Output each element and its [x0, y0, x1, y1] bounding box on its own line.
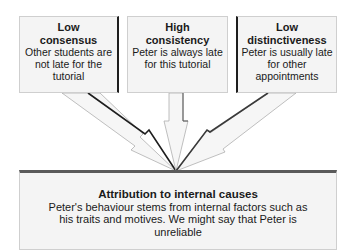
box-low-consensus-title-line1: Low — [20, 21, 117, 34]
box-high-consistency-title-line1: High — [128, 21, 227, 34]
box-internal-attribution-text: Peter's behaviour stems from internal fa… — [20, 201, 336, 239]
box-high-consistency: High consistency Peter is always late fo… — [127, 16, 228, 93]
arrow-left — [62, 93, 176, 171]
box-internal-attribution-title: Attribution to internal causes — [20, 188, 336, 201]
box-low-distinctiveness: Low distinctiveness Peter is usually lat… — [236, 16, 337, 93]
box-low-distinctiveness-title-line2: distinctiveness — [238, 34, 336, 47]
box-low-distinctiveness-text: Peter is usually late for other appointm… — [238, 46, 336, 82]
box-low-consensus-text: Other students are not late for the tuto… — [20, 46, 117, 82]
box-low-consensus-title-line2: consensus — [20, 34, 117, 47]
arrow-right — [176, 93, 296, 171]
box-low-distinctiveness-title-line1: Low — [238, 21, 336, 34]
box-high-consistency-title-line2: consistency — [128, 34, 227, 47]
box-high-consistency-text: Peter is always late for this tutorial — [128, 46, 227, 70]
box-internal-attribution: Attribution to internal causes Peter's b… — [19, 170, 337, 250]
box-low-consensus: Low consensus Other students are not lat… — [19, 16, 119, 93]
